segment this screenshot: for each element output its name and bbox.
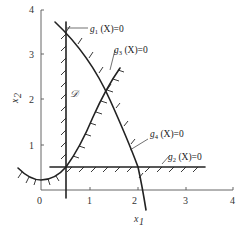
y-axis-label: x 2 [9,93,23,104]
label-g3: g3 (X)=0 [114,45,148,56]
constraint-diagram: 4 3 2 1 0 1 2 3 4 x 1 x 2 [0,0,242,234]
x-tick-3: 3 [183,195,188,206]
svg-text:1: 1 [139,216,144,227]
label-g4: g4 (X)=0 [150,129,184,140]
y-tick-3: 3 [29,49,34,60]
svg-text:g4 (X)=0: g4 (X)=0 [150,129,184,140]
feasible-region-label: 𝒟 [70,88,80,99]
y-tick-2: 2 [29,94,34,105]
label-g2: g2 (X)=0 [168,152,202,163]
svg-text:g1 (X)=0: g1 (X)=0 [90,24,124,35]
x-tick-2: 2 [132,195,137,206]
y-tick-1: 1 [29,140,34,151]
svg-text:g2 (X)=0: g2 (X)=0 [168,152,202,163]
x-tick-4: 4 [230,195,235,206]
x-tick-1: 1 [87,195,92,206]
y-tick-4: 4 [29,4,34,15]
label-g1: g1 (X)=0 [90,24,124,35]
svg-text:g3 (X)=0: g3 (X)=0 [114,45,148,56]
svg-text:2: 2 [12,93,23,98]
x-tick-0: 0 [37,195,42,206]
constraint-g3-curve [18,68,120,180]
g4-leader [130,139,148,150]
x-axis-label: x 1 [133,213,144,227]
